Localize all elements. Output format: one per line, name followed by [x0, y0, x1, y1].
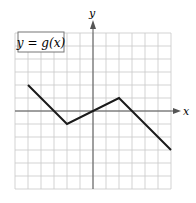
function-line: [28, 85, 171, 150]
function-graph: y = g(x) y x: [0, 0, 196, 203]
function-label-box: y = g(x): [16, 32, 66, 52]
function-label: y = g(x): [16, 36, 66, 50]
y-axis-label: y: [88, 7, 96, 20]
x-axis-label: x: [183, 105, 190, 118]
